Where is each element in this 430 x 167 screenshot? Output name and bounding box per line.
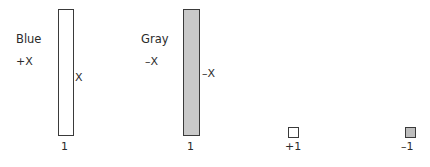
bar-gray-label: Gray — [141, 34, 169, 46]
swatch-minus-one-label: –1 — [401, 141, 414, 152]
bar-blue-side-label: X — [75, 72, 83, 83]
swatch-plus-one — [288, 127, 299, 138]
bar-blue-base-label: 1 — [61, 141, 68, 152]
bar-blue-label: Blue — [16, 34, 41, 46]
bar-blue — [58, 9, 74, 136]
bar-blue-sign-label: +X — [16, 56, 33, 67]
bar-gray-sign-label: –X — [145, 56, 158, 67]
swatch-minus-one — [405, 127, 416, 138]
diagram-canvas: Blue +X X 1 Gray –X –X 1 +1 –1 — [0, 0, 430, 167]
bar-gray-base-label: 1 — [187, 141, 194, 152]
bar-gray — [183, 9, 200, 136]
swatch-plus-one-label: +1 — [285, 141, 301, 152]
bar-gray-side-label: –X — [202, 68, 215, 79]
